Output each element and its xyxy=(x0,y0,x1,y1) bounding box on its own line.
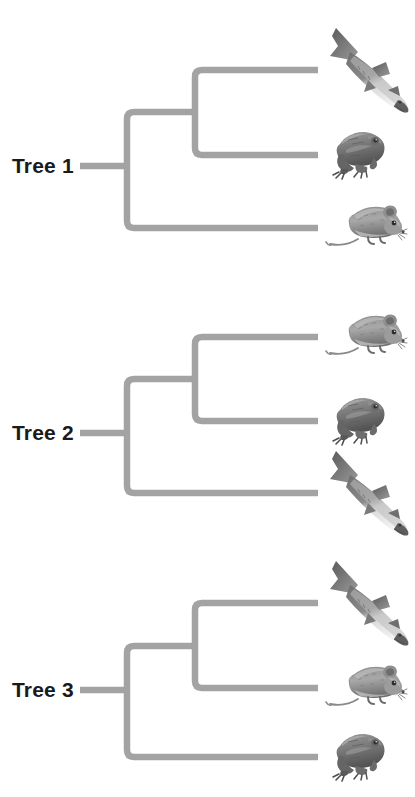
inner-clade-path-2 xyxy=(195,337,318,421)
shark-illustration xyxy=(324,445,415,541)
tree-branches-2 xyxy=(0,0,415,797)
inner-clade-path-3 xyxy=(195,603,318,688)
inner-clade-path-1 xyxy=(195,70,318,155)
frog-illustration xyxy=(328,388,392,450)
tree-block-1: Tree 1 xyxy=(0,0,415,797)
frog-illustration xyxy=(328,724,392,786)
tree-block-3: Tree 3 xyxy=(0,0,415,797)
mouse-illustration xyxy=(324,305,408,363)
frog-illustration xyxy=(328,122,392,184)
phylogenetic-tree-figure: Tree 1 xyxy=(0,0,415,797)
outer-clade-path-1 xyxy=(127,112,318,228)
tree-branches-3 xyxy=(0,0,415,797)
tree-branches-1 xyxy=(0,0,415,797)
shark-illustration xyxy=(324,555,415,651)
tree-label-1: Tree 1 xyxy=(12,155,74,176)
tree-block-2: Tree 2 xyxy=(0,0,415,797)
mouse-illustration xyxy=(324,656,408,714)
mouse-illustration xyxy=(324,196,408,254)
tree-label-3: Tree 3 xyxy=(12,679,74,700)
tree-label-2: Tree 2 xyxy=(12,422,74,443)
outer-clade-path-3 xyxy=(127,646,318,757)
outer-clade-path-2 xyxy=(127,379,318,493)
shark-illustration xyxy=(324,22,415,118)
